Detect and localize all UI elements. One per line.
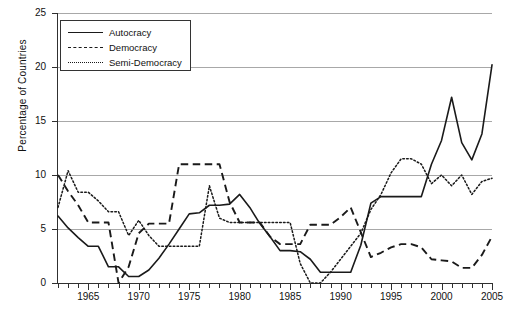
legend-label-autocracy: Autocracy	[103, 27, 151, 38]
x-tick-1995	[391, 283, 392, 290]
legend-box: Autocracy Democracy Semi-Democracy	[60, 20, 191, 71]
x-tick-label-1975: 1975	[169, 291, 209, 302]
y-axis-title: Percentage of Countries	[17, 16, 28, 176]
x-tick-1970	[139, 283, 140, 290]
x-tick-label-2000: 2000	[422, 291, 462, 302]
x-tick-1985	[290, 283, 291, 290]
gridline-0	[58, 283, 492, 284]
y-tick-label-10: 10	[20, 169, 46, 180]
x-tick-2000	[442, 283, 443, 290]
legend-item-democracy: Democracy	[61, 40, 190, 55]
legend-line-sample-dotted-icon	[68, 58, 103, 68]
x-tick-label-1985: 1985	[270, 291, 310, 302]
legend-label-democracy: Democracy	[103, 42, 157, 53]
y-tick-label-20: 20	[20, 61, 46, 72]
x-tick-2005	[492, 283, 493, 290]
legend-line-sample-solid-icon	[68, 28, 103, 38]
x-tick-1975	[189, 283, 190, 290]
x-tick-1965	[88, 283, 89, 290]
x-tick-label-1980: 1980	[220, 291, 260, 302]
x-tick-label-2005: 2005	[472, 291, 512, 302]
y-tick-label-25: 25	[20, 7, 46, 18]
x-tick-1990	[341, 283, 342, 290]
legend-item-autocracy: Autocracy	[61, 25, 190, 40]
legend-label-semi-democracy: Semi-Democracy	[103, 57, 182, 68]
y-tick-label-5: 5	[20, 223, 46, 234]
x-tick-label-1970: 1970	[119, 291, 159, 302]
x-tick-label-1965: 1965	[68, 291, 108, 302]
y-tick-label-0: 0	[20, 277, 46, 288]
x-tick-1980	[240, 283, 241, 290]
x-tick-label-1995: 1995	[371, 291, 411, 302]
y-tick-label-15: 15	[20, 115, 46, 126]
legend-item-semi-democracy: Semi-Democracy	[61, 55, 190, 70]
x-tick-label-1990: 1990	[321, 291, 361, 302]
legend-line-sample-dashed-icon	[68, 43, 103, 53]
line-autocracy	[58, 65, 492, 277]
chart-container: Percentage of Countries 0510152025 19651…	[0, 0, 512, 313]
